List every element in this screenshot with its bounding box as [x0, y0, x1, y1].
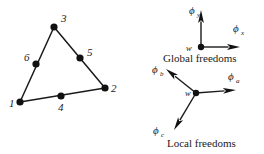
element-node-2	[101, 84, 108, 91]
element-node-6	[32, 60, 39, 67]
technical-diagram-svg: 123456ϕyϕxwGlobal freedomsϕaϕbϕcwLocal f…	[0, 0, 264, 154]
local-freedoms-phi-a-subscript: a	[236, 77, 240, 85]
element-node-label-6: 6	[24, 51, 30, 63]
element-node-label-2: 2	[111, 82, 117, 94]
global-freedoms-phi-x-subscript: x	[240, 29, 245, 37]
local-freedoms-phi-c-subscript: c	[161, 131, 165, 139]
local-freedoms-caption: Local freedoms	[167, 137, 236, 149]
local-freedoms-phi-a-symbol: ϕ	[228, 70, 234, 82]
local-freedoms-phi-b-symbol: ϕ	[152, 63, 158, 75]
global-freedoms-caption: Global freedoms	[163, 52, 237, 64]
element-node-label-5: 5	[87, 46, 93, 58]
local-freedoms-phi-a-arrow-head	[223, 88, 236, 94]
element-node-label-4: 4	[58, 101, 64, 113]
element-node-5	[76, 54, 83, 61]
local-freedoms-origin-node	[193, 90, 199, 96]
global-freedoms-phi-x-arrow-head	[227, 44, 240, 50]
element-node-4	[57, 92, 64, 99]
figure-canvas: 123456ϕyϕxwGlobal freedomsϕaϕbϕcwLocal f…	[0, 0, 264, 154]
local-freedoms-phi-b-subscript: b	[160, 70, 164, 78]
local-freedoms-phi-c-arrow-head	[174, 117, 183, 130]
local-freedoms-phi-c-symbol: ϕ	[153, 124, 159, 136]
element-node-3	[50, 23, 57, 30]
global-freedoms-phi-y-symbol: ϕ	[189, 4, 195, 16]
element-node-1	[16, 98, 23, 105]
element-node-label-3: 3	[60, 12, 67, 24]
local-freedoms-phi-a-arrow-shaft	[196, 91, 225, 93]
local-freedoms-origin-label: w	[185, 88, 191, 98]
global-freedoms-phi-x-symbol: ϕ	[233, 22, 239, 34]
global-freedoms-origin-node	[198, 44, 204, 50]
element-node-label-1: 1	[9, 97, 15, 109]
